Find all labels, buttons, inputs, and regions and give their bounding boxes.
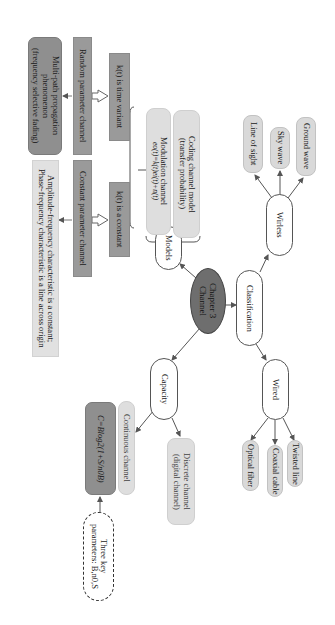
coaxial-cable-node[interactable]: Coaxial cable <box>267 445 283 497</box>
amplitude-line2: Phase-frequency characteristic is a line… <box>37 169 47 347</box>
optical-fiber-node[interactable]: Optical fiber <box>242 440 259 491</box>
amplitude-label: Amplitude-frequency characteristic is a … <box>36 169 56 347</box>
key-params-line2: parameters: B,n0,S <box>90 524 100 589</box>
multipath-line3: (frequency selective fading) <box>31 48 41 143</box>
discrete-line2: (digital channel) <box>172 454 182 510</box>
capacity-node[interactable]: Capacity <box>150 358 178 420</box>
discrete-channel-node[interactable]: Discrete channel (digital channel) <box>167 438 195 525</box>
coding-subtitle: (transfer probability) <box>178 138 188 209</box>
multipath-line2: phenomenon <box>41 74 51 118</box>
constant-parameter-channel-node[interactable]: Constant parameter channel <box>73 160 92 277</box>
modulation-channel-label: Modulation channel eo(t)=k(t)ei(t)+n(t) <box>149 137 169 205</box>
capacity-formula: C=Blog2(1+S/n0B) <box>96 415 106 483</box>
modulation-channel-node[interactable]: Modulation channel eo(t)=k(t)ei(t)+n(t) <box>146 108 171 235</box>
modulation-equation: eo(t)=k(t)ei(t)+n(t) <box>151 142 160 200</box>
k-time-variant-node[interactable]: k(t) is time variant <box>109 53 130 141</box>
continuous-channel-label: Continuous channel <box>122 414 132 482</box>
multipath-node[interactable]: Multi-path propagation phenomenon (frequ… <box>28 37 62 155</box>
discrete-channel-label: Discrete channel (digital channel) <box>171 453 191 510</box>
random-parameter-channel-node[interactable]: Random parameter channel <box>73 37 92 155</box>
amplitude-frequency-node[interactable]: Amplitude-frequency characteristic is a … <box>32 160 59 357</box>
twisted-line-node[interactable]: Twisted line <box>287 440 303 487</box>
coaxial-cable-label: Coaxial cable <box>270 448 280 495</box>
root-label: Chapter 3 Channel <box>198 283 219 318</box>
twisted-line-label: Twisted line <box>290 443 300 485</box>
chapter-3-channel-root[interactable]: Chapter 3 Channel <box>190 268 226 334</box>
wired-label: Wired <box>271 379 281 400</box>
key-parameters-label: Three key parameters: B,n0,S <box>89 524 109 589</box>
classification-label: Classification <box>245 285 255 332</box>
capacity-label: Capacity <box>159 374 169 404</box>
key-parameters-node[interactable]: Three key parameters: B,n0,S <box>83 512 114 601</box>
coding-title: Coding channel model <box>187 136 197 213</box>
multipath-line1: Multi-path propagation <box>51 56 61 135</box>
line-of-sight-label: Line of sight <box>248 122 258 165</box>
multipath-label: Multi-path propagation phenomenon (frequ… <box>30 48 59 143</box>
k-constant-label: k(t) is a constant <box>115 191 125 247</box>
line-of-sight-node[interactable]: Line of sight <box>243 115 263 173</box>
wireless-node[interactable]: Wirless <box>266 194 293 256</box>
root-label-line2: Channel <box>198 286 208 316</box>
models-label: Models <box>164 235 174 261</box>
modulation-title: Modulation channel <box>159 137 169 205</box>
classification-node[interactable]: Classification <box>236 270 263 346</box>
coding-channel-label: Coding channel model (transfer probabili… <box>177 136 197 213</box>
wireless-label: Wirless <box>275 212 285 238</box>
k-constant-node[interactable]: k(t) is a constant <box>109 182 130 257</box>
constant-channel-label: Constant parameter channel <box>78 171 88 266</box>
root-label-line1: Chapter 3 <box>208 283 218 318</box>
wired-node[interactable]: Wired <box>262 359 289 420</box>
ground-wave-label: Ground wave <box>301 123 311 169</box>
continuous-channel-node[interactable]: Continuous channel <box>118 401 135 495</box>
k-time-variant-label: k(t) is time variant <box>115 65 125 128</box>
optical-fiber-label: Optical fiber <box>246 444 256 487</box>
sky-wave-node[interactable]: Sky wave <box>270 127 290 169</box>
amplitude-line1: Amplitude-frequency characteristic is a … <box>46 175 56 342</box>
capacity-formula-node[interactable]: C=Blog2(1+S/n0B) <box>85 402 116 495</box>
random-channel-label: Random parameter channel <box>78 49 88 142</box>
key-params-line1: Three key <box>99 539 109 573</box>
sky-wave-label: Sky wave <box>275 131 285 164</box>
discrete-line1: Discrete channel <box>182 453 192 510</box>
ground-wave-node[interactable]: Ground wave <box>296 117 316 176</box>
coding-channel-node[interactable]: Coding channel model (transfer probabili… <box>173 110 200 238</box>
